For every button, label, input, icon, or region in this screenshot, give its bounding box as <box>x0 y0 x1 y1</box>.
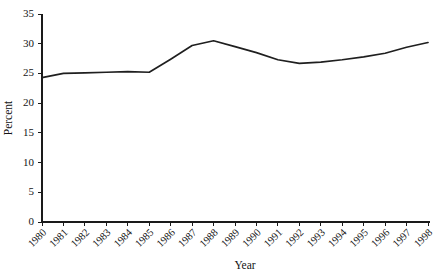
x-tick-label: 1985 <box>133 227 156 250</box>
x-tick-label: 1998 <box>412 227 435 250</box>
x-tick-label: 1988 <box>197 227 220 250</box>
y-tick-label: 30 <box>23 37 35 49</box>
x-tick-label: 1994 <box>326 226 349 249</box>
y-tick-label: 10 <box>23 156 35 168</box>
x-tick-label: 1991 <box>262 227 285 250</box>
y-tick-label: 0 <box>29 215 35 227</box>
line-chart-canvas: 05101520253035 1980198119821983198419851… <box>0 0 441 276</box>
x-tick-label: 1996 <box>369 227 392 250</box>
chart-title <box>180 0 300 8</box>
x-tick-label: 1986 <box>154 227 177 250</box>
x-axis-ticks <box>42 222 428 226</box>
x-tick-label: 1997 <box>390 227 413 250</box>
y-tick-label: 5 <box>29 185 35 197</box>
x-axis-title: Year <box>234 259 255 271</box>
x-axis-tick-labels: 1980198119821983198419851986198719881989… <box>26 226 435 249</box>
y-tick-label: 20 <box>23 96 35 108</box>
chart-figure: 05101520253035 1980198119821983198419851… <box>0 0 441 276</box>
y-axis-ticks <box>38 14 42 222</box>
x-tick-label: 1983 <box>90 227 113 250</box>
y-axis-title: Percent <box>2 100 14 135</box>
x-tick-label: 1995 <box>347 227 370 250</box>
x-tick-label: 1993 <box>305 227 328 250</box>
x-tick-label: 1981 <box>47 227 70 250</box>
x-tick-label: 1980 <box>26 227 49 250</box>
x-tick-label: 1990 <box>240 227 263 250</box>
x-tick-label: 1982 <box>69 227 92 250</box>
x-tick-label: 1992 <box>283 227 306 250</box>
y-tick-label: 35 <box>23 7 35 19</box>
data-series-line <box>42 41 428 78</box>
y-tick-label: 15 <box>23 126 35 138</box>
x-tick-label: 1987 <box>176 227 199 250</box>
y-tick-label: 25 <box>23 66 35 78</box>
y-axis-tick-labels: 05101520253035 <box>23 7 35 227</box>
x-tick-label: 1984 <box>112 226 135 249</box>
x-tick-label: 1989 <box>219 227 242 250</box>
